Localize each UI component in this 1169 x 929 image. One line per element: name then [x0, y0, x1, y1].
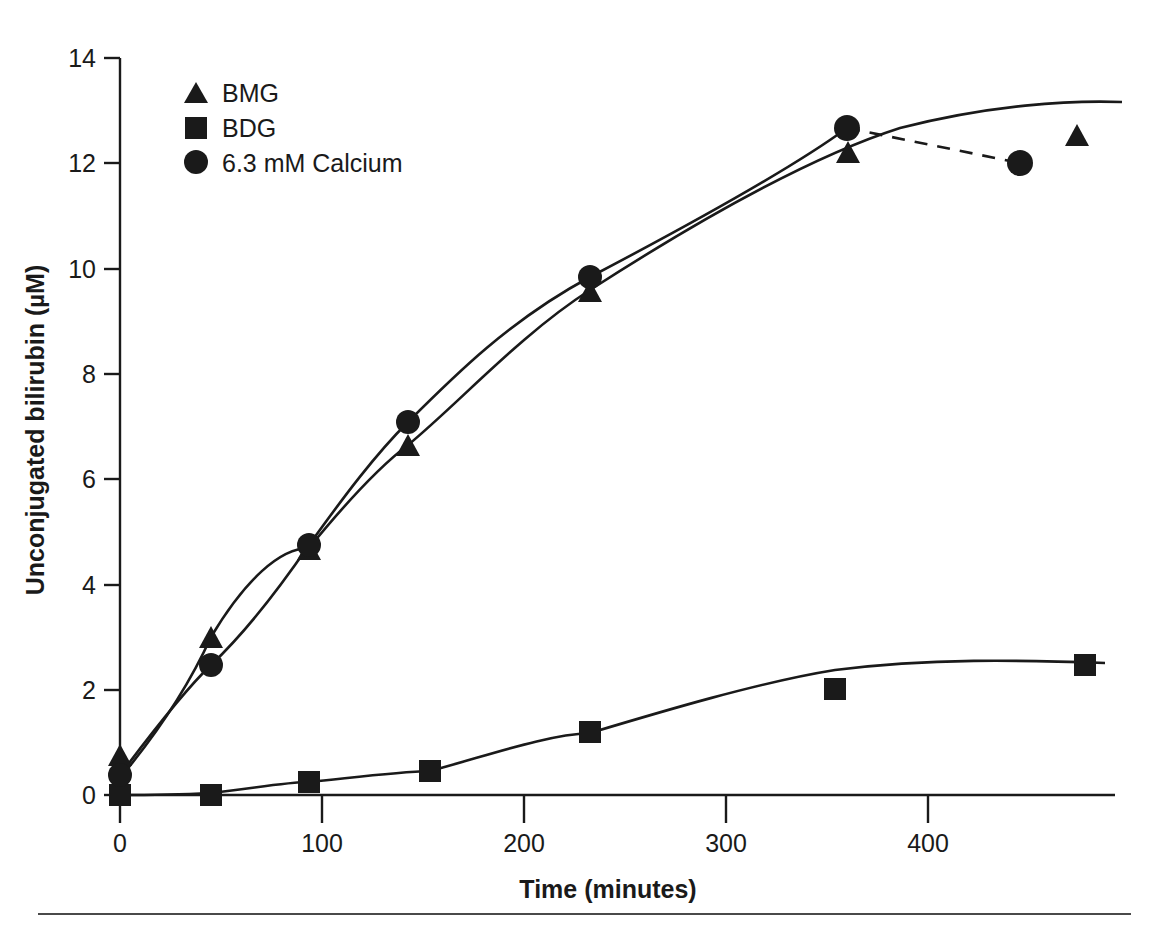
marker-bdg-2	[298, 771, 320, 793]
marker-calcium-5	[834, 115, 860, 141]
marker-calcium-1	[199, 653, 223, 677]
marker-bmg-0	[108, 744, 132, 766]
y-axis-title-tail: M)	[21, 265, 49, 294]
legend: BMG BDG 6.3 mM Calcium	[184, 79, 403, 177]
series-bdg-curve	[120, 661, 1105, 795]
marker-bdg-3	[419, 760, 441, 782]
y-axis-title: Unconjugated bilirubin (µM)	[21, 265, 49, 595]
y-tick-label-8: 8	[82, 360, 96, 388]
y-tick-label-6: 6	[82, 465, 96, 493]
marker-calcium-0	[108, 763, 132, 787]
y-tick-label-4: 4	[82, 571, 96, 599]
x-tick-label-400: 400	[907, 829, 949, 857]
x-tick-label-100: 100	[301, 829, 343, 857]
legend-label-calcium: 6.3 mM Calcium	[222, 149, 403, 177]
marker-calcium-6	[1007, 150, 1033, 176]
y-tick-label-0: 0	[82, 781, 96, 809]
x-axis-title: Time (minutes)	[519, 875, 696, 903]
y-tick-label-14: 14	[68, 44, 96, 72]
marker-bmg-1	[199, 626, 223, 648]
svg-text:Unconjugated bilirubin (µM): Unconjugated bilirubin (µM)	[21, 265, 49, 595]
marker-bdg-1	[200, 784, 222, 806]
x-tick-label-0: 0	[113, 829, 127, 857]
marker-bdg-4	[579, 721, 601, 743]
y-tick-label-12: 12	[68, 149, 96, 177]
marker-bmg-6	[1065, 124, 1089, 146]
legend-marker-circle-icon	[184, 150, 208, 174]
y-tick-label-2: 2	[82, 676, 96, 704]
marker-bdg-0	[109, 784, 131, 806]
legend-marker-square-icon	[185, 117, 207, 139]
marker-bdg-6	[1074, 654, 1096, 676]
legend-label-bmg: BMG	[222, 79, 279, 107]
marker-bdg-5	[824, 678, 846, 700]
y-tick-label-10: 10	[68, 255, 96, 283]
legend-label-bdg: BDG	[222, 114, 276, 142]
x-tick-label-300: 300	[705, 829, 747, 857]
figure-container: 14 12 10 8 6 4 2 0 0 100 200 300 400 Tim…	[0, 0, 1169, 929]
chart-svg: 14 12 10 8 6 4 2 0 0 100 200 300 400 Tim…	[0, 0, 1169, 929]
y-axis-title-mu: µ	[22, 294, 49, 308]
marker-calcium-4	[578, 265, 602, 289]
legend-marker-triangle-icon	[184, 82, 208, 103]
series-calcium-dashed-tail	[847, 128, 1020, 163]
y-axis-title-main: Unconjugated bilirubin (	[21, 307, 49, 595]
marker-calcium-3	[396, 410, 420, 434]
series-bmg-curve	[120, 102, 1122, 778]
x-tick-label-200: 200	[503, 829, 545, 857]
series-calcium-curve	[120, 128, 847, 775]
marker-calcium-2	[297, 533, 321, 557]
